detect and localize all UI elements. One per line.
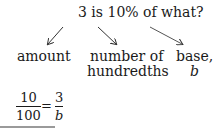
- label-hundredths: hundredths: [87, 63, 169, 79]
- arrow-to-amount: [48, 27, 63, 44]
- right-numerator: 3: [55, 90, 63, 105]
- fraction-left: 10 100: [16, 90, 41, 123]
- arrow-to-base: [150, 27, 182, 44]
- fraction-right: 3 b: [55, 90, 63, 123]
- label-amount: amount: [17, 48, 71, 64]
- fraction-bar: [55, 106, 63, 107]
- label-base-variable: b: [190, 63, 199, 79]
- label-number-of: number of: [90, 48, 163, 64]
- left-numerator: 10: [20, 90, 37, 105]
- arrow-to-hundredths: [98, 27, 116, 44]
- divider-rule: [0, 126, 55, 128]
- equals-sign: =: [41, 98, 52, 113]
- fraction-bar: [16, 106, 41, 107]
- left-denominator: 100: [16, 108, 41, 123]
- label-base: base,: [176, 48, 213, 64]
- right-denominator: b: [55, 108, 63, 123]
